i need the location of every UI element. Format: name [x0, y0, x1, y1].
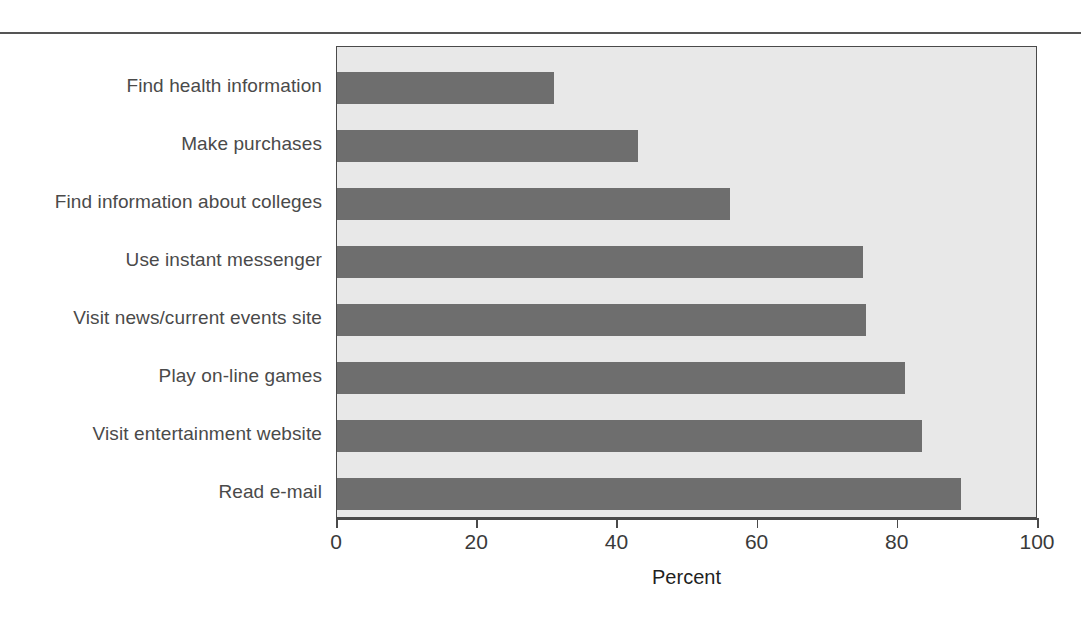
bar [337, 72, 554, 104]
x-tick-label: 40 [605, 530, 628, 554]
bar [337, 304, 866, 336]
bar-row [337, 117, 1036, 175]
x-tick-mark [897, 518, 899, 528]
x-tick-mark [1037, 518, 1039, 528]
category-label: Visit entertainment website [2, 423, 322, 445]
bar [337, 420, 922, 452]
category-label: Read e-mail [2, 481, 322, 503]
x-tick-label: 0 [330, 530, 342, 554]
x-axis-title: Percent [336, 566, 1037, 589]
x-axis-line [336, 518, 1037, 520]
top-divider-rule [0, 32, 1081, 34]
x-tick-mark [616, 518, 618, 528]
x-tick-label: 60 [745, 530, 768, 554]
plot-area [336, 46, 1037, 518]
bar-row [337, 233, 1036, 291]
x-tick-label: 80 [885, 530, 908, 554]
category-label: Visit news/current events site [2, 307, 322, 329]
x-tick-mark [336, 518, 338, 528]
bar-row [337, 407, 1036, 465]
bar-row [337, 465, 1036, 523]
chart-figure: Find health informationMake purchasesFin… [0, 0, 1081, 623]
category-label: Use instant messenger [2, 249, 322, 271]
bar [337, 246, 863, 278]
bar-row [337, 175, 1036, 233]
bar-row [337, 349, 1036, 407]
x-tick-label: 20 [465, 530, 488, 554]
bar-row [337, 59, 1036, 117]
bar [337, 362, 905, 394]
bar [337, 478, 961, 510]
bar [337, 130, 638, 162]
category-label: Find information about colleges [2, 191, 322, 213]
x-tick-mark [757, 518, 759, 528]
bar [337, 188, 730, 220]
x-tick-label: 100 [1019, 530, 1054, 554]
bar-row [337, 291, 1036, 349]
x-tick-mark [476, 518, 478, 528]
category-label: Find health information [2, 75, 322, 97]
category-label: Make purchases [2, 133, 322, 155]
category-label: Play on-line games [2, 365, 322, 387]
category-axis-labels: Find health informationMake purchasesFin… [0, 46, 322, 518]
